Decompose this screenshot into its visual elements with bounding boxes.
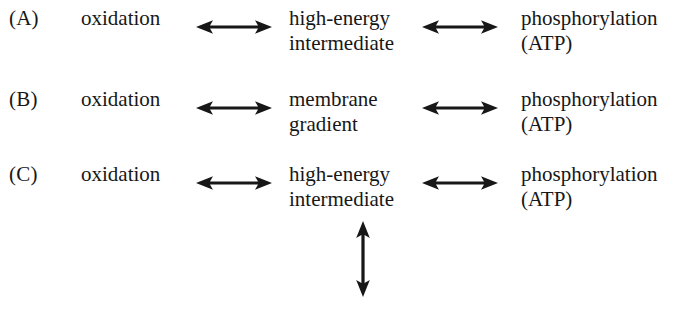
row-a-right-term: phosphorylation (ATP) [521, 6, 658, 56]
row-b-right-term: phosphorylation (ATP) [521, 87, 658, 137]
row-b-left-term: oxidation [81, 87, 160, 112]
row-b-right-term-line2: (ATP) [521, 112, 658, 137]
coupling-hypotheses-diagram: (A) oxidation high-energy intermediate p… [0, 0, 689, 313]
row-a-arrow-left [196, 16, 272, 38]
row-label-b: (B) [9, 87, 38, 112]
row-b-arrow-right [422, 97, 498, 119]
row-c-middle-term-line1: high-energy [289, 162, 390, 186]
row-a-left-term: oxidation [81, 6, 160, 31]
row-b-arrow-left [196, 97, 272, 119]
row-a-middle-term-line2: intermediate [289, 31, 394, 56]
diagram-row-b: (B) oxidation membrane gradient phosphor… [0, 87, 689, 149]
row-c-left-term: oxidation [81, 162, 160, 187]
row-c-middle-term: high-energy intermediate [289, 162, 394, 212]
row-c-right-term: phosphorylation (ATP) [521, 162, 658, 212]
row-a-middle-term: high-energy intermediate [289, 6, 394, 56]
row-b-middle-term: membrane gradient [289, 87, 378, 137]
row-a-arrow-right [422, 16, 498, 38]
row-b-middle-term-line1: membrane [289, 87, 378, 111]
row-c-middle-term-line2: intermediate [289, 187, 394, 212]
row-c-right-term-line1: phosphorylation [521, 162, 658, 186]
row-c-arrow-left [196, 172, 272, 194]
row-a-right-term-line1: phosphorylation [521, 6, 658, 30]
row-label-c: (C) [9, 162, 38, 187]
row-c-vertical-arrow [352, 221, 374, 297]
row-a-right-term-line2: (ATP) [521, 31, 658, 56]
row-b-right-term-line1: phosphorylation [521, 87, 658, 111]
row-a-middle-term-line1: high-energy [289, 6, 390, 30]
row-label-a: (A) [9, 6, 39, 31]
diagram-row-c: (C) oxidation high-energy intermediate p… [0, 162, 689, 224]
row-c-right-term-line2: (ATP) [521, 187, 658, 212]
diagram-row-a: (A) oxidation high-energy intermediate p… [0, 6, 689, 68]
row-c-arrow-right [422, 172, 498, 194]
row-b-middle-term-line2: gradient [289, 112, 378, 137]
